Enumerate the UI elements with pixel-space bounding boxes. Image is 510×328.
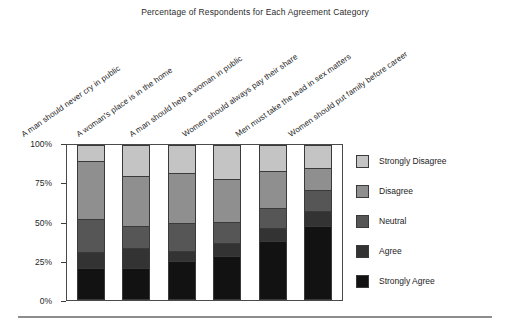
stacked-bar[interactable] [168,145,196,300]
bar-segment[interactable] [259,171,287,208]
stacked-bar[interactable] [304,145,332,300]
stacked-bar[interactable] [259,145,287,300]
legend-item[interactable]: Strongly Agree [356,266,506,296]
stacked-bar[interactable] [122,145,150,300]
bar-segment[interactable] [77,145,105,161]
bar-segment[interactable] [213,179,241,222]
legend-item-label: Strongly Agree [379,276,435,286]
x-axis-tick-label: A woman's place is in the home [75,66,174,139]
bar-segment[interactable] [259,228,287,241]
legend-item-label: Agree [379,246,402,256]
bar-segment[interactable] [77,219,105,253]
bar-segment[interactable] [259,145,287,171]
bar-segment[interactable] [122,145,150,176]
bar-segment[interactable] [213,256,241,300]
horizontal-rule [18,316,492,318]
legend-item-label: Disagree [379,186,413,196]
bar-segment[interactable] [168,251,196,261]
x-axis-tick-label: Women should put family before career [287,49,409,139]
bar-segment[interactable] [168,223,196,251]
bar-segment[interactable] [122,248,150,268]
bar-segment[interactable] [168,261,196,300]
legend-swatch-icon [356,215,369,228]
bar-segment[interactable] [122,176,150,226]
y-axis-tick-label: 50% [35,218,52,228]
legend-item[interactable]: Strongly Disagree [356,146,506,176]
stacked-bar[interactable] [77,145,105,300]
bar-segment[interactable] [304,226,332,300]
stacked-bar-group [67,145,342,300]
legend-item-label: Strongly Disagree [379,156,447,166]
y-axis-tick-mark [61,301,66,302]
bar-segment[interactable] [168,173,196,223]
legend-item-label: Neutral [379,216,406,226]
legend-item[interactable]: Neutral [356,206,506,236]
y-axis-tick-label: 25% [35,257,52,267]
bar-segment[interactable] [168,145,196,173]
bar-segment[interactable] [259,208,287,228]
plot-area [66,144,343,301]
legend: Strongly DisagreeDisagreeNeutralAgreeStr… [356,146,506,296]
bar-segment[interactable] [122,268,150,300]
legend-swatch-icon [356,155,369,168]
y-axis-tick-label: 100% [30,139,52,149]
x-axis-tick-label: A man should never cry in public [20,64,122,139]
bar-segment[interactable] [213,222,241,244]
legend-swatch-icon [356,245,369,258]
legend-swatch-icon [356,275,369,288]
bar-segment[interactable] [77,161,105,219]
stacked-bar[interactable] [213,145,241,300]
bar-segment[interactable] [304,168,332,190]
x-axis-tick-labels: A man should never cry in publicA woman'… [0,0,510,145]
y-axis-tick-label: 75% [35,178,52,188]
legend-item[interactable]: Agree [356,236,506,266]
legend-item[interactable]: Disagree [356,176,506,206]
bar-segment[interactable] [304,211,332,227]
bar-segment[interactable] [213,145,241,179]
legend-swatch-icon [356,185,369,198]
bar-segment[interactable] [77,252,105,268]
y-axis-tick-label: 0% [40,296,52,306]
bar-segment[interactable] [304,190,332,210]
bar-segment[interactable] [259,241,287,300]
x-axis-tick-label: A man should help a woman in public [128,54,244,139]
bar-segment[interactable] [77,268,105,300]
bar-segment[interactable] [122,226,150,248]
bar-segment[interactable] [213,243,241,256]
bar-segment[interactable] [304,145,332,168]
